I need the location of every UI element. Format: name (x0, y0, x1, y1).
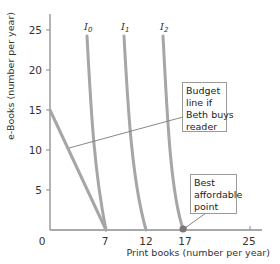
x-tick-12: 12 (139, 235, 152, 247)
best-note-line: Best (194, 177, 233, 189)
budget-note-line: line if (186, 97, 223, 109)
best-point-pointer (185, 213, 206, 228)
best-affordable-point-dot (180, 226, 187, 233)
y-tick-20: 20 (29, 64, 42, 76)
y-tick-15: 15 (29, 104, 42, 116)
y-axis-title: e-Books (number per year) (5, 12, 16, 140)
best-note-line: point (194, 201, 233, 213)
budget-note-line: Budget (186, 85, 223, 97)
x-tick-17: 17 (178, 235, 191, 247)
origin-label: 0 (39, 235, 46, 247)
budget-note-line: reader (186, 121, 223, 133)
best-affordable-point-note: Best affordable point (190, 174, 237, 214)
y-tick-5: 5 (35, 184, 42, 196)
best-note-line: affordable (194, 189, 233, 201)
label-i2: I2 (159, 21, 169, 34)
label-i0: I0 (83, 21, 93, 34)
y-tick-25: 25 (29, 24, 42, 36)
x-axis-title: Print books (number per year) (126, 247, 270, 258)
budget-note-pointer (69, 117, 183, 148)
budget-note-line: Beth buys (186, 109, 223, 121)
label-i1: I1 (120, 21, 129, 34)
x-tick-25: 25 (242, 235, 255, 247)
indifference-curve-i2 (163, 36, 183, 229)
x-tick-7: 7 (102, 235, 109, 247)
indifference-curve-i0 (87, 36, 106, 230)
chart: 5 10 15 20 25 0 7 12 17 25 Print books (… (0, 0, 280, 264)
budget-line-note: Budget line if Beth buys reader (182, 82, 227, 132)
y-tick-10: 10 (29, 144, 42, 156)
indifference-curve-i1 (124, 36, 146, 230)
